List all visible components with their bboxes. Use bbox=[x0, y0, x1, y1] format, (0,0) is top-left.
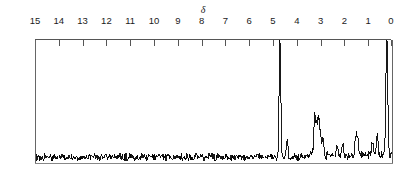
spectrum-trace bbox=[36, 40, 392, 161]
spectrum-canvas: 15 14 13 12 11 10 9 8 7 6 5 4 3 2 1 0 δ bbox=[0, 0, 401, 172]
tick-label-1: 1 bbox=[366, 15, 371, 26]
tick-label-10: 10 bbox=[149, 15, 160, 26]
delta-axis-symbol: δ bbox=[201, 4, 206, 15]
nmr-spectrum-figure: 15 14 13 12 11 10 9 8 7 6 5 4 3 2 1 0 δ bbox=[0, 0, 401, 172]
tick-label-13: 13 bbox=[77, 15, 88, 26]
tick-label-2: 2 bbox=[342, 15, 347, 26]
tick-label-4: 4 bbox=[294, 15, 299, 26]
tick-label-8: 8 bbox=[199, 15, 204, 26]
spectrum-trace-group bbox=[36, 40, 392, 161]
tick-label-12: 12 bbox=[101, 15, 112, 26]
tick-label-6: 6 bbox=[247, 15, 252, 26]
tick-label-7: 7 bbox=[223, 15, 228, 26]
tick-label-5: 5 bbox=[270, 15, 275, 26]
tick-label-11: 11 bbox=[125, 15, 135, 26]
tick-label-0: 0 bbox=[388, 15, 393, 26]
tick-label-15: 15 bbox=[30, 15, 41, 26]
x-axis-ticks bbox=[36, 40, 392, 47]
tick-label-9: 9 bbox=[175, 15, 180, 26]
tick-label-3: 3 bbox=[318, 15, 323, 26]
tick-label-14: 14 bbox=[54, 15, 65, 26]
x-axis-tick-labels: 15 14 13 12 11 10 9 8 7 6 5 4 3 2 1 0 bbox=[30, 15, 394, 26]
